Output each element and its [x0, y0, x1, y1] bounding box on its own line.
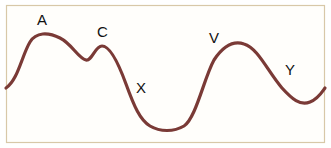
wave-diagram: A C X V Y	[0, 0, 331, 148]
label-v: V	[209, 29, 219, 46]
label-c: C	[97, 23, 108, 40]
label-y: Y	[285, 61, 295, 78]
diagram-frame	[7, 6, 325, 143]
label-a: A	[37, 11, 47, 28]
label-x: X	[136, 79, 146, 96]
